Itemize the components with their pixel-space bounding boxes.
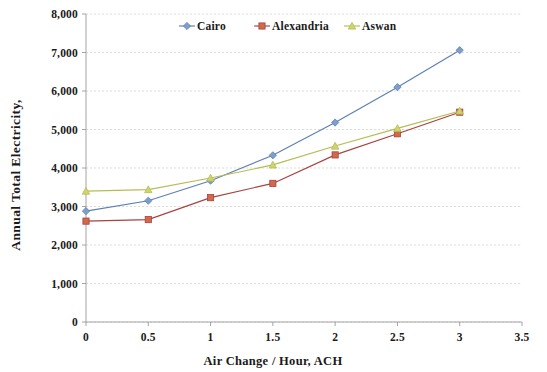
x-tick-label: 0	[83, 331, 89, 343]
data-point-marker	[259, 23, 265, 29]
y-tick-label: 0	[72, 316, 78, 328]
data-point-marker	[270, 180, 276, 186]
y-tick-label: 5,000	[51, 124, 78, 136]
line-chart: 01,0002,0003,0004,0005,0006,0007,0008,00…	[0, 0, 547, 372]
data-point-marker	[332, 152, 338, 158]
series-line	[86, 111, 460, 191]
x-tick-label: 1.5	[265, 331, 280, 343]
y-tick-label: 6,000	[51, 85, 78, 97]
legend-label: Aswan	[362, 20, 397, 32]
data-point-marker	[82, 208, 89, 215]
y-axis-title: Annual Total Electricity,	[8, 99, 23, 250]
data-point-marker	[332, 119, 339, 126]
x-tick-label: 3	[457, 331, 463, 343]
y-tick-label: 4,000	[51, 162, 78, 174]
legend-label: Cairo	[197, 20, 226, 32]
x-tick-label: 2	[332, 331, 338, 343]
chart-figure: 01,0002,0003,0004,0005,0006,0007,0008,00…	[0, 0, 547, 372]
legend-item-aswan[interactable]: Aswan	[344, 20, 397, 32]
x-tick-label: 1	[208, 331, 214, 343]
data-series-group	[82, 47, 463, 225]
legend-item-alexandria[interactable]: Alexandria	[254, 20, 329, 32]
data-point-marker	[145, 216, 151, 222]
x-tick-label: 2.5	[390, 331, 405, 343]
data-point-marker	[145, 197, 152, 204]
data-point-marker	[83, 218, 89, 224]
plot-gridlines	[86, 14, 522, 322]
x-axis-title: Air Change / Hour, ACH	[204, 354, 343, 368]
data-point-marker	[394, 84, 401, 91]
y-tick-label: 2,000	[51, 239, 78, 251]
x-tick-label: 0.5	[141, 331, 156, 343]
y-tick-label: 7,000	[51, 47, 78, 59]
y-tick-label: 8,000	[51, 8, 78, 20]
y-axis-tick-labels: 01,0002,0003,0004,0005,0006,0007,0008,00…	[51, 8, 78, 328]
data-point-marker	[207, 195, 213, 201]
series-line	[86, 50, 460, 211]
data-point-marker	[269, 152, 276, 159]
y-tick-label: 3,000	[51, 201, 78, 213]
data-point-marker	[183, 22, 190, 29]
legend-item-cairo[interactable]: Cairo	[179, 20, 226, 32]
x-axis-tick-labels: 00.511.522.533.5	[83, 331, 530, 343]
y-tick-label: 1,000	[51, 278, 78, 290]
legend-label: Alexandria	[272, 20, 329, 32]
chart-legend: CairoAlexandriaAswan	[179, 20, 397, 32]
x-tick-label: 3.5	[515, 331, 530, 343]
